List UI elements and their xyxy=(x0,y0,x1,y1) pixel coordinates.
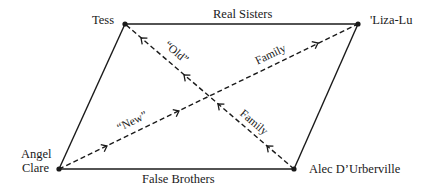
node-label-alec: Alec D’Urberville xyxy=(309,163,400,176)
edge-old-family-dashed xyxy=(125,24,294,169)
node-label-angel-line1: Angel xyxy=(21,148,52,161)
diagram-canvas xyxy=(0,0,427,189)
edge-angel-tess xyxy=(59,24,125,169)
node-dot-liza xyxy=(355,21,360,26)
node-label-liza: 'Liza-Lu xyxy=(370,14,413,27)
node-dot-alec xyxy=(291,166,296,171)
edge-label-real-sisters: Real Sisters xyxy=(213,8,272,21)
arrow-icon xyxy=(312,39,320,48)
edge-label-false-brothers: False Brothers xyxy=(142,173,215,186)
node-dot-tess xyxy=(122,21,127,26)
node-label-angel-line2: Clare xyxy=(22,162,49,175)
node-dot-angel xyxy=(56,166,61,171)
node-label-tess: Tess xyxy=(92,14,114,27)
edge-alec-liza xyxy=(294,24,358,169)
